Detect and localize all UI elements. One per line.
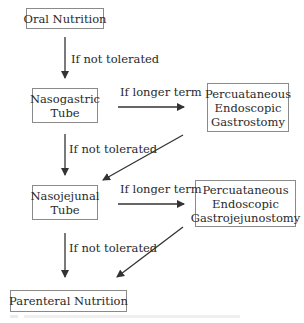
edge-label-ng-to-peg: If longer term [120, 85, 202, 99]
node-peg-line-3: Gastrostomy [211, 115, 285, 129]
node-peg-line-2: Endoscopic [215, 101, 282, 115]
node-nj-line-2: Tube [50, 203, 79, 217]
node-ng-line-1: Nasogastric [30, 92, 100, 106]
edge-label-oral-to-ng: If not tolerated [71, 52, 159, 66]
edge-label-nj-to-pn: If not tolerated [69, 241, 157, 255]
node-peg-line-1: Percuataneous [205, 87, 291, 101]
node-pegj: Percuataneous Endoscopic Gastrojejunosto… [195, 180, 296, 227]
arrows-layer [0, 0, 304, 323]
node-peg: Percuataneous Endoscopic Gastrostomy [207, 83, 289, 132]
node-pn-line-1: Parenteral Nutrition [9, 294, 128, 308]
node-oral-nutrition: Oral Nutrition [26, 8, 104, 29]
node-pegj-line-2: Endoscopic [212, 197, 279, 211]
edge-label-ng-to-nj: If not tolerated [69, 142, 157, 156]
node-pegj-line-3: Gastrojejunostomy [191, 211, 301, 225]
node-nasogastric-tube: Nasogastric Tube [32, 88, 98, 123]
node-nj-line-1: Nasojejunal [30, 189, 99, 203]
edge-label-nj-to-pegj: If longer term [120, 182, 202, 196]
node-oral-line-1: Oral Nutrition [24, 12, 107, 26]
node-ng-line-2: Tube [50, 106, 79, 120]
truncated-caption [10, 315, 240, 318]
node-nasojejunal-tube: Nasojejunal Tube [32, 185, 98, 220]
node-pegj-line-1: Percuataneous [202, 183, 288, 197]
node-parenteral-nutrition: Parenteral Nutrition [10, 290, 127, 312]
